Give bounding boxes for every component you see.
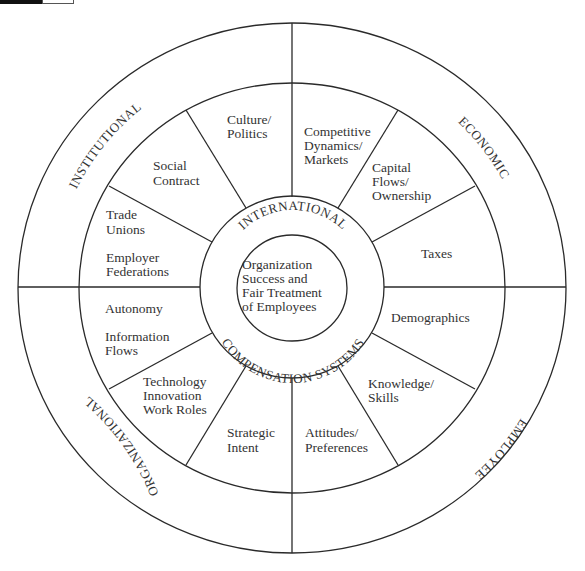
segment-trade-unions: Trade Unions Employer Federations (106, 207, 169, 279)
svg-text:Work Roles: Work Roles (143, 402, 207, 417)
segment-technology: Technology Innovation Work Roles (143, 374, 207, 417)
svg-text:Unions: Unions (106, 222, 145, 237)
segment-social-contract: Social Contract (153, 158, 200, 188)
svg-text:Trade: Trade (106, 207, 137, 222)
svg-text:Flows/: Flows/ (372, 174, 409, 189)
segment-autonomy: Autonomy Information Flows (105, 301, 170, 358)
svg-text:Employer: Employer (106, 250, 160, 265)
svg-text:Contract: Contract (153, 173, 200, 188)
segment-demographics: Demographics (391, 310, 470, 325)
svg-text:Culture/: Culture/ (227, 112, 271, 127)
ring-top-label: INTERNATIONAL (235, 198, 351, 232)
svg-text:Knowledge/: Knowledge/ (368, 376, 434, 391)
segment-capital-flows: Capital Flows/ Ownership (372, 160, 431, 203)
svg-text:Success and: Success and (242, 271, 308, 286)
quadrant-employee: EMPLOYEE (472, 417, 531, 484)
svg-text:Taxes: Taxes (421, 246, 452, 261)
svg-text:Skills: Skills (368, 390, 399, 405)
segment-culture-politics: Culture/ Politics (227, 112, 271, 141)
svg-text:Capital: Capital (372, 160, 411, 175)
segment-attitudes-preferences: Attitudes/ Preferences (305, 425, 368, 455)
svg-text:Intent: Intent (227, 440, 259, 455)
svg-text:Information: Information (105, 329, 170, 344)
svg-text:Competitive: Competitive (304, 124, 371, 139)
svg-text:Social: Social (153, 158, 187, 173)
svg-text:Fair Treatment: Fair Treatment (242, 285, 322, 300)
segment-taxes: Taxes (421, 246, 452, 261)
svg-text:Federations: Federations (106, 264, 169, 279)
svg-text:Organization: Organization (242, 257, 312, 272)
svg-text:Autonomy: Autonomy (105, 301, 163, 316)
center-label: Organization Success and Fair Treatment … (242, 257, 322, 314)
svg-text:Dynamics/: Dynamics/ (304, 138, 363, 153)
svg-text:Attitudes/: Attitudes/ (305, 425, 358, 440)
svg-text:Markets: Markets (304, 152, 348, 167)
svg-text:Ownership: Ownership (372, 188, 431, 203)
svg-text:of Employees: of Employees (242, 299, 317, 314)
quadrant-institutional: INSTITUTIONAL (66, 99, 145, 191)
svg-text:Innovation: Innovation (143, 388, 202, 403)
segment-strategic-intent: Strategic Intent (227, 425, 275, 455)
svg-text:Politics: Politics (227, 126, 268, 141)
segment-knowledge-skills: Knowledge/ Skills (368, 376, 434, 405)
svg-text:Technology: Technology (143, 374, 207, 389)
svg-text:Strategic: Strategic (227, 425, 275, 440)
svg-text:Preferences: Preferences (305, 440, 368, 455)
svg-text:Demographics: Demographics (391, 310, 470, 325)
quadrant-economic: ECONOMIC (456, 113, 513, 181)
svg-text:Flows: Flows (105, 343, 138, 358)
segment-competitive-dynamics: Competitive Dynamics/ Markets (304, 124, 371, 167)
compensation-wheel-diagram: Organization Success and Fair Treatment … (0, 0, 585, 571)
